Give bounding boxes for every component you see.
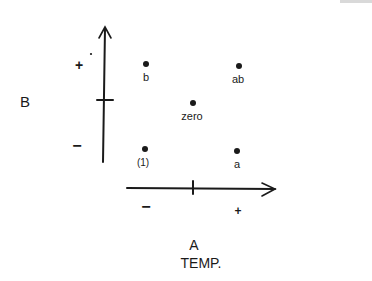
b-high-label: +	[75, 58, 83, 72]
point-1	[142, 146, 148, 152]
point-zero	[190, 100, 196, 106]
a-axis	[127, 181, 275, 196]
point-ab	[236, 63, 242, 69]
a-high-label: +	[234, 205, 241, 217]
factorial-design-diagram: + B − b ab zero (1) a − + A TEMP.	[0, 0, 372, 281]
a-axis-name: TEMP.	[181, 256, 222, 270]
point-label-b: b	[143, 72, 149, 83]
a-axis-letter: A	[189, 238, 198, 252]
point-label-zero: zero	[181, 111, 202, 122]
point-b	[143, 61, 149, 67]
point-label-a: a	[234, 159, 240, 170]
b-axis-letter: B	[20, 94, 30, 109]
b-low-label: −	[72, 138, 81, 154]
stray-dot	[90, 53, 92, 55]
b-axis	[97, 27, 113, 162]
point-a	[234, 148, 240, 154]
point-label-ab: ab	[232, 74, 244, 85]
design-points	[90, 53, 242, 154]
point-label-1: (1)	[137, 158, 149, 168]
axes-graphic	[0, 0, 372, 281]
a-low-label: −	[141, 199, 150, 215]
